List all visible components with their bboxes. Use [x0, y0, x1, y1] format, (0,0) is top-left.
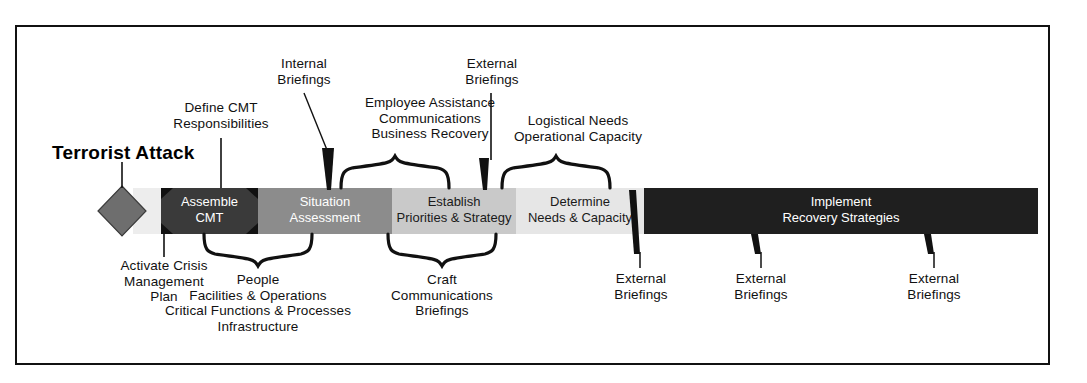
annotation-craft-communications: Craft Communications Briefings: [382, 272, 502, 319]
wedge-external-briefings-top: [479, 158, 489, 190]
annotation-external-briefings-2: External Briefings: [701, 271, 821, 302]
annotation-define-cmt: Define CMT Responsibilities: [151, 100, 291, 131]
brace-logistical-needs: [502, 156, 610, 188]
terrorist-attack-diamond[interactable]: [98, 186, 146, 236]
annotation-logistical-needs: Logistical Needs Operational Capacity: [486, 113, 670, 144]
notch-assemble-right-bottom: [246, 223, 258, 234]
annotation-external-briefings-1: External Briefings: [581, 271, 701, 302]
wedge-external-briefings-1: [629, 190, 640, 254]
annotation-external-briefings-3: External Briefings: [874, 271, 994, 302]
annotation-external-briefings-top: External Briefings: [432, 56, 552, 87]
annotation-people-facilities: People Facilities & Operations Critical …: [153, 272, 363, 334]
brace-employee-assistance: [341, 156, 449, 188]
leader-internal-briefings: [304, 93, 327, 150]
wedge-internal-briefings: [322, 148, 334, 190]
notch-assemble-right-top: [246, 188, 258, 199]
brace-craft-communications: [388, 234, 496, 266]
wedge-external-briefings-2: [751, 234, 761, 254]
notch-assemble-left-top: [161, 188, 173, 199]
notch-assemble-left-bottom: [161, 223, 173, 234]
diagram-canvas: AssembleCMT SituationAssessment Establis…: [0, 0, 1087, 383]
wedge-external-briefings-3: [924, 234, 934, 254]
annotation-internal-briefings: Internal Briefings: [244, 56, 364, 87]
page-title: Terrorist Attack: [52, 142, 195, 164]
